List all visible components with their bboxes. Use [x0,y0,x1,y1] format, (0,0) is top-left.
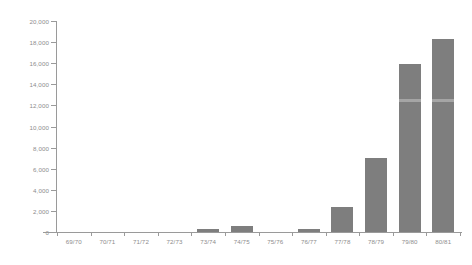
y-tick-label: 16,000 [5,60,49,67]
y-tick-mark [51,232,56,233]
y-tick-mark [51,105,56,106]
y-tick-mark [51,211,56,212]
x-tick-label: 80/81 [420,238,466,245]
bar [365,158,387,232]
y-tick-mark [51,84,56,85]
x-tick-mark [124,232,125,236]
y-tick-mark [51,190,56,191]
y-tick-label: 12,000 [5,102,49,109]
x-tick-mark [191,232,192,236]
x-tick-mark [393,232,394,236]
y-tick-label: 2,000 [5,207,49,214]
y-tick-mark [51,148,56,149]
bar [432,39,454,232]
bar [399,64,421,232]
bar [231,226,253,232]
x-tick-mark [292,232,293,236]
bar [331,207,353,232]
x-axis-line [43,232,462,233]
bar-chart: 02,0004,0006,0008,00010,00012,00014,0001… [0,0,472,265]
x-tick-mark [426,232,427,236]
y-tick-mark [51,42,56,43]
y-tick-label: 20,000 [5,18,49,25]
y-tick-mark [51,169,56,170]
x-tick-mark [460,232,461,236]
bars-container [57,21,460,232]
bar [197,229,219,232]
y-tick-label: 4,000 [5,186,49,193]
y-tick-mark [51,21,56,22]
y-tick-label: 10,000 [5,123,49,130]
x-tick-mark [57,232,58,236]
y-tick-label: 8,000 [5,144,49,151]
y-tick-label: 6,000 [5,165,49,172]
x-tick-mark [158,232,159,236]
y-tick-mark [51,127,56,128]
y-tick-mark [51,63,56,64]
y-tick-label: 18,000 [5,39,49,46]
y-tick-label: 14,000 [5,81,49,88]
y-axis-labels: 02,0004,0006,0008,00010,00012,00014,0001… [0,0,49,265]
x-tick-mark [91,232,92,236]
x-tick-mark [225,232,226,236]
x-tick-mark [326,232,327,236]
x-tick-mark [359,232,360,236]
x-tick-mark [259,232,260,236]
bar [298,229,320,232]
